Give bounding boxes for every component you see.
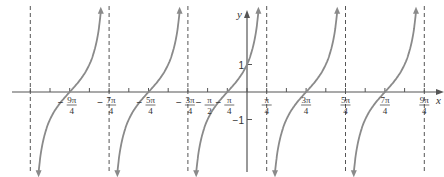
arrow-up-icon [255, 7, 261, 14]
fraction-numerator: 7π [107, 95, 117, 105]
fraction-numerator: 5π [341, 95, 351, 105]
arrow-down-icon [114, 170, 120, 177]
x-tick-label: −π4 [215, 95, 234, 116]
arrow-down-icon [193, 170, 199, 177]
fraction-denominator: 4 [148, 106, 153, 116]
x-tick-label: −3π4 [176, 95, 195, 116]
arrow-down-icon [36, 170, 42, 177]
minus-sign: − [137, 97, 143, 108]
x-tick-label: −9π4 [58, 95, 77, 116]
tick-labels: 1−1xy−9π4−7π4−5π4−3π4−π2−π4π43π45π47π49π… [58, 8, 441, 126]
x-tick-label: −7π4 [97, 95, 116, 116]
x-tick-label: 7π4 [380, 95, 390, 116]
fraction-numerator: 9π [67, 95, 77, 105]
arrow-down-icon [351, 170, 357, 177]
minus-sign: − [196, 97, 202, 108]
fraction-numerator: π [207, 95, 212, 105]
arrow-up-icon [177, 7, 183, 14]
y-axis-label: y [236, 8, 242, 20]
minus-sign: − [176, 97, 182, 108]
x-tick-label: −π2 [196, 95, 215, 116]
fraction-numerator: 3π [302, 95, 312, 105]
fraction-denominator: 4 [227, 106, 232, 116]
minus-sign: − [215, 97, 221, 108]
fraction-denominator: 4 [343, 106, 348, 116]
fraction-denominator: 4 [188, 106, 193, 116]
minus-sign: − [58, 97, 64, 108]
fraction-denominator: 4 [304, 106, 309, 116]
arrow-up-icon [334, 7, 340, 14]
arrow-up-icon [98, 7, 104, 14]
y-tick-label: 1 [238, 60, 244, 71]
fraction-denominator: 4 [422, 106, 427, 116]
fraction-denominator: 4 [69, 106, 74, 116]
fraction-denominator: 4 [383, 106, 388, 116]
x-tick-label: 9π4 [419, 95, 429, 116]
fraction-numerator: 7π [380, 95, 390, 105]
y-tick-label: −1 [233, 115, 245, 126]
fraction-numerator: π [264, 95, 269, 105]
fraction-numerator: 5π [146, 95, 156, 105]
fraction-denominator: 4 [264, 106, 269, 116]
x-tick-label: π4 [262, 95, 272, 116]
x-axis-label: x [435, 94, 441, 106]
x-tick-label: 5π4 [341, 95, 351, 116]
tangent-graph: 1−1xy−9π4−7π4−5π4−3π4−π2−π4π43π45π47π49π… [0, 0, 444, 177]
y-axis-arrow-icon [244, 10, 250, 18]
x-tick-label: 3π4 [301, 95, 311, 116]
x-tick-label: −5π4 [137, 95, 156, 116]
fraction-denominator: 4 [109, 106, 114, 116]
fraction-numerator: π [227, 95, 232, 105]
fraction-denominator: 2 [207, 106, 212, 116]
minus-sign: − [97, 97, 103, 108]
fraction-numerator: 9π [420, 95, 430, 105]
arrow-up-icon [413, 7, 419, 14]
arrow-down-icon [272, 170, 278, 177]
fraction-numerator: 3π [185, 95, 195, 105]
